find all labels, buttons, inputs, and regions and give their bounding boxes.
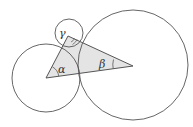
gamma-label: γ: [59, 27, 66, 40]
tangent-circles-diagram: α β γ: [0, 0, 193, 127]
beta-label: β: [98, 58, 105, 71]
alpha-label: α: [58, 63, 66, 76]
